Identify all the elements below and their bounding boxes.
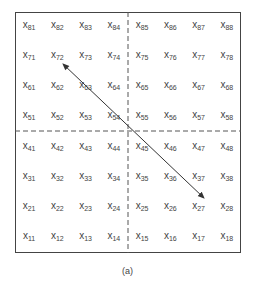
diagonal-arrow: [63, 64, 204, 198]
figure-caption: (a): [0, 266, 255, 276]
diagram-lines: [0, 0, 255, 283]
